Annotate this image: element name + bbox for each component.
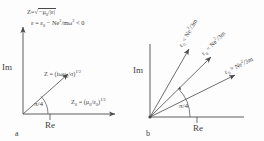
panel-a-vector-sup: 1/2: [75, 69, 81, 74]
panel-a-real-axis-label: Re: [45, 121, 55, 130]
panel-a-angle-label: π/4: [34, 101, 43, 108]
panel-b-imag-axis-label: Im: [133, 66, 143, 75]
panel-a-imag-axis-label: Im: [2, 63, 12, 72]
panel-a-z0-sup: 1/2: [100, 97, 106, 102]
panel-a-note1-radicand-wrap: −μ0/|ε|: [38, 8, 56, 18]
panel-a-vector-body: = (iωμ: [48, 70, 66, 77]
panel-a: Im Re π/4 Z=√−μ0/|ε| ε = ε0 − Ne2/mω2 < …: [0, 0, 132, 141]
panel-b-lower-vector: [150, 75, 235, 117]
panel-a-note2-b: − Ne: [45, 19, 59, 26]
panel-a-axis-right-label: Z0 = (μ0/ε0)1/2: [71, 98, 106, 108]
panel-a-note1-radicand-rest: /|ε|: [48, 8, 55, 15]
panel-a-note2-a: ε = ε: [31, 19, 43, 26]
panel-a-note-line-1: Z=√−μ0/|ε|: [27, 8, 56, 18]
panel-a-note1-radicand: −μ: [39, 8, 46, 15]
panel-a-z0-body: = (μ: [77, 98, 89, 105]
panel-b-caption: b: [146, 130, 150, 138]
panel-b-real-axis-label: Re: [193, 124, 203, 133]
panel-a-impedance-vector: [23, 74, 68, 114]
panel-b: Im Re π/4 ε0 < Ne2/3m ε0 = Ne2/3m ε0 > N…: [132, 0, 264, 141]
panel-a-note-line-2: ε = ε0 − Ne2/mω2 < 0: [31, 19, 84, 29]
figure-root: Im Re π/4 Z=√−μ0/|ε| ε = ε0 − Ne2/mω2 < …: [0, 0, 264, 141]
panel-b-angle-label: π/4: [179, 103, 188, 110]
panel-a-note2-tail: < 0: [74, 19, 84, 26]
panel-a-vector-label: Z = (iωμ0/σ)1/2: [44, 70, 81, 80]
panel-a-caption: a: [15, 130, 19, 138]
panel-a-note2-c: /mω: [61, 19, 72, 26]
panel-b-origin-dot: [148, 115, 151, 118]
